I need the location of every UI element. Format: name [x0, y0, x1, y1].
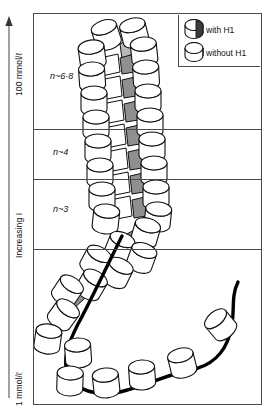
zone-label-n3: n~3: [53, 204, 68, 214]
axis-label-top: 100 mmol/ℓ: [14, 53, 24, 96]
legend-item-with-h1: with H1: [183, 19, 234, 40]
figure-panel: n~6·8 n~4 n~3: [33, 13, 262, 405]
nucleosome-cylinder-open-icon: [183, 42, 205, 63]
axis-label-bottom: 1 mmol/ℓ: [14, 372, 24, 406]
legend-item-without-h1: without H1: [183, 42, 246, 63]
legend: with H1 without H1: [178, 15, 260, 67]
legend-label-without-h1: without H1: [206, 48, 246, 58]
axis-label-middle: Increasing I: [14, 213, 24, 258]
ionic-strength-axis: 100 mmol/ℓ Increasing I 1 mmol/ℓ: [0, 0, 33, 416]
zone-divider-3: [34, 249, 261, 250]
zone-label-n6-8: n~6·8: [50, 71, 73, 81]
legend-label-with-h1: with H1: [206, 25, 234, 35]
zone-divider-1: [34, 129, 261, 130]
chromatin-condensation-figure: 100 mmol/ℓ Increasing I 1 mmol/ℓ n~6·8 n…: [0, 0, 275, 416]
zone-divider-2: [34, 179, 261, 180]
zone-label-n4: n~4: [53, 147, 68, 157]
nucleosome-cylinder-shaded-icon: [183, 19, 205, 40]
